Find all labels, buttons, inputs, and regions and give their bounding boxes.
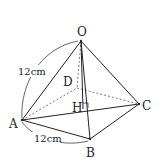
- label-H: H: [72, 101, 82, 115]
- edge-OD: [77, 41, 81, 88]
- label-C: C: [142, 99, 151, 113]
- point-A: [21, 119, 23, 121]
- edge-OC: [81, 41, 139, 104]
- label-O: O: [77, 25, 87, 39]
- pyramid-diagram: O A B C D H 12cm 12cm: [0, 0, 163, 168]
- point-O: [80, 40, 82, 42]
- label-B: B: [86, 146, 95, 160]
- label-D: D: [63, 75, 73, 89]
- edge-AD: [22, 88, 77, 120]
- label-AB-length: 12cm: [34, 133, 62, 144]
- point-C: [138, 103, 140, 105]
- point-B: [89, 138, 91, 140]
- label-OA-length: 12cm: [18, 66, 46, 77]
- label-A: A: [8, 117, 18, 131]
